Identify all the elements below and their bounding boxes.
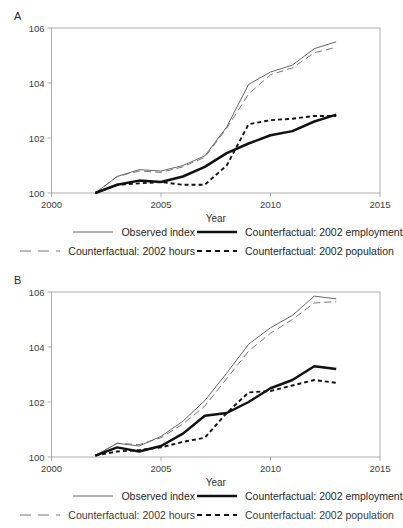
legend-label-hours: Counterfactual: 2002 hours — [68, 245, 195, 257]
legend-entry-population: Counterfactual: 2002 population — [195, 509, 402, 521]
data-series-line — [95, 47, 336, 193]
legend-entry-employment: Counterfactual: 2002 employment — [195, 490, 402, 502]
data-series-line — [95, 115, 336, 193]
legend-b: Observed index Counterfactual: 2002 empl… — [0, 486, 402, 524]
legend-key-population-icon — [195, 245, 239, 257]
x-axis-tick-label: 2015 — [369, 463, 390, 474]
y-axis-tick-label: 100 — [29, 188, 45, 199]
y-axis-tick-label: 104 — [29, 78, 45, 89]
x-axis-tick-label: 2010 — [260, 463, 281, 474]
legend-key-hours-icon — [18, 509, 62, 521]
chart-panel-b: B 1001021041062000200520102015Year Obser… — [0, 264, 402, 528]
legend-key-observed-icon — [71, 490, 115, 502]
y-axis-tick-label: 102 — [29, 397, 45, 408]
legend-label-observed: Observed index — [121, 226, 195, 238]
legend-key-population-icon — [195, 509, 239, 521]
legend-label-employment: Counterfactual: 2002 employment — [245, 490, 403, 502]
legend-label-population: Counterfactual: 2002 population — [245, 245, 394, 257]
y-axis-tick-label: 104 — [29, 342, 45, 353]
legend-entry-employment: Counterfactual: 2002 employment — [195, 226, 402, 238]
legend-label-observed: Observed index — [121, 490, 195, 502]
x-axis-tick-label: 2015 — [369, 199, 390, 210]
data-series-line — [95, 366, 336, 455]
legend-a: Observed index Counterfactual: 2002 empl… — [0, 222, 402, 260]
legend-key-hours-icon — [18, 245, 62, 257]
legend-label-hours: Counterfactual: 2002 hours — [68, 509, 195, 521]
legend-label-population: Counterfactual: 2002 population — [245, 509, 394, 521]
legend-entry-hours: Counterfactual: 2002 hours — [0, 245, 195, 257]
legend-row-2: Counterfactual: 2002 hours Counterfactua… — [0, 505, 402, 524]
legend-row-1: Observed index Counterfactual: 2002 empl… — [0, 486, 402, 505]
legend-entry-observed: Observed index — [0, 490, 195, 502]
y-axis-tick-label: 106 — [29, 23, 45, 34]
legend-entry-population: Counterfactual: 2002 population — [195, 245, 402, 257]
y-axis-tick-label: 102 — [29, 133, 45, 144]
x-axis-tick-label: 2005 — [150, 463, 171, 474]
legend-key-employment-icon — [195, 490, 239, 502]
legend-entry-hours: Counterfactual: 2002 hours — [0, 509, 195, 521]
y-axis-tick-label: 100 — [29, 452, 45, 463]
legend-key-employment-icon — [195, 226, 239, 238]
legend-key-observed-icon — [71, 226, 115, 238]
y-axis-tick-label: 106 — [29, 287, 45, 298]
legend-row-2: Counterfactual: 2002 hours Counterfactua… — [0, 241, 402, 260]
x-axis-tick-label: 2005 — [150, 199, 171, 210]
data-series-line — [95, 302, 336, 456]
x-axis-tick-label: 2010 — [260, 199, 281, 210]
chart-panel-a: A 1001021041062000200520102015Year Obser… — [0, 0, 402, 264]
legend-row-1: Observed index Counterfactual: 2002 empl… — [0, 222, 402, 241]
legend-entry-observed: Observed index — [0, 226, 195, 238]
x-axis-tick-label: 2000 — [41, 463, 62, 474]
x-axis-tick-label: 2000 — [41, 199, 62, 210]
legend-label-employment: Counterfactual: 2002 employment — [245, 226, 403, 238]
